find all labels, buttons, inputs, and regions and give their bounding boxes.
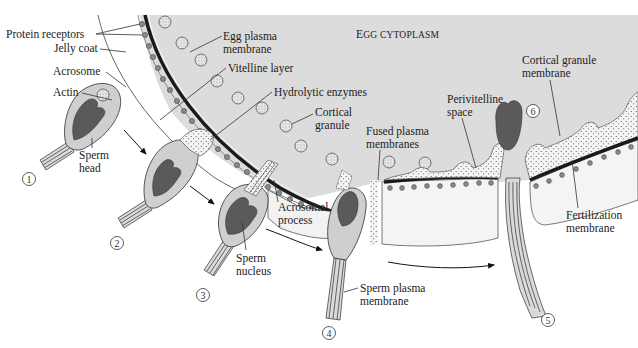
step-3-badge: 3 (197, 289, 210, 302)
label-sperm-nucleus-1: Sperm (236, 252, 266, 265)
label-sperm-head-1: Sperm (79, 149, 109, 162)
label-cortical-granule-1: Cortical (315, 106, 352, 118)
label-fertilization-membrane-1: Fertilization (566, 209, 622, 221)
label-acrosome: Acrosome (53, 65, 100, 77)
label-actin: Actin (53, 86, 79, 98)
label-acrosomal-process-1: Acrosomal (278, 201, 328, 213)
label-protein-receptors: Protein receptors (6, 28, 85, 41)
label-perivitelline-space-2: space (447, 106, 473, 119)
label-sperm-head-2: head (79, 162, 101, 174)
sperm-step-2 (118, 129, 213, 228)
label-vitelline-layer: Vitelline layer (228, 62, 294, 75)
label-fused-plasma-membranes-1: Fused plasma (366, 125, 429, 138)
label-sperm-plasma-membrane-1: Sperm plasma (360, 282, 425, 295)
step-4-badge: 4 (323, 327, 336, 340)
step-2-badge: 2 (111, 237, 124, 250)
label-cortical-granule-membrane-2: membrane (522, 67, 571, 79)
label-egg-cytoplasm: EGG CYTOPLASM (356, 28, 439, 40)
svg-text:3: 3 (201, 290, 206, 301)
label-cortical-granule-2: granule (315, 119, 349, 132)
label-fused-plasma-membranes-2: membranes (366, 138, 420, 150)
fertilization-diagram: Protein receptors Jelly coat Acrosome Ac… (0, 0, 638, 348)
svg-text:4: 4 (327, 328, 332, 339)
label-cortical-granule-membrane-1: Cortical granule (522, 54, 596, 67)
label-egg-plasma-membrane-1: Egg plasma (223, 30, 277, 43)
svg-text:1: 1 (27, 174, 32, 185)
step-1-badge: 1 (23, 173, 36, 186)
label-fertilization-membrane-2: membrane (566, 222, 615, 234)
label-egg-plasma-membrane-2: membrane (223, 43, 272, 55)
label-jelly-coat: Jelly coat (54, 42, 99, 55)
svg-text:5: 5 (546, 315, 551, 326)
step-6-badge: 6 (527, 105, 540, 118)
label-acrosomal-process-2: process (278, 214, 313, 227)
label-sperm-plasma-membrane-2: membrane (360, 295, 409, 307)
label-sperm-nucleus-2: nucleus (236, 265, 272, 277)
step-5-badge: 5 (542, 314, 555, 327)
svg-text:6: 6 (531, 106, 536, 117)
label-perivitelline-space-1: Perivitelline (447, 93, 503, 105)
svg-text:2: 2 (115, 238, 120, 249)
label-hydrolytic-enzymes: Hydrolytic enzymes (274, 86, 367, 99)
